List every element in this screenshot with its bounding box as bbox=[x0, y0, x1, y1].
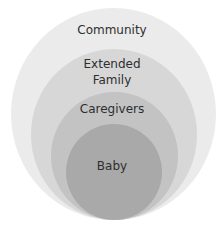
label-caregivers: Caregivers bbox=[0, 102, 224, 117]
label-extended-family-line2: Family bbox=[0, 73, 224, 88]
label-baby: Baby bbox=[0, 159, 224, 174]
label-extended-family-line1: Extended bbox=[0, 57, 224, 72]
label-community: Community bbox=[0, 23, 224, 38]
